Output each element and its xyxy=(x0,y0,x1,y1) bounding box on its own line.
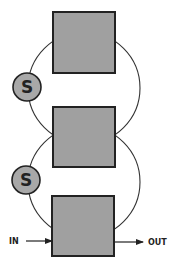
box-bottom xyxy=(52,196,114,256)
output-label: OUT xyxy=(148,238,167,247)
s-node-upper: S xyxy=(13,73,41,101)
s-node-upper-label: S xyxy=(21,77,33,97)
s-node-lower: S xyxy=(12,166,40,194)
s-node-lower-label: S xyxy=(20,170,32,190)
loop-diagram: S S IN OUT xyxy=(0,0,173,268)
input-label: IN xyxy=(9,237,19,246)
box-middle xyxy=(53,107,115,167)
box-top xyxy=(53,12,115,73)
